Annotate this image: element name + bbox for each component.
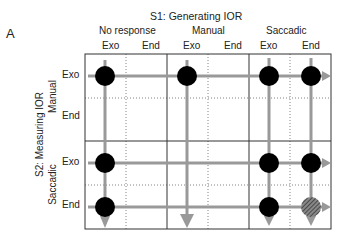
dot-noresp-exo-manual-exo xyxy=(95,66,115,86)
ior-grid-diagram xyxy=(0,0,351,248)
